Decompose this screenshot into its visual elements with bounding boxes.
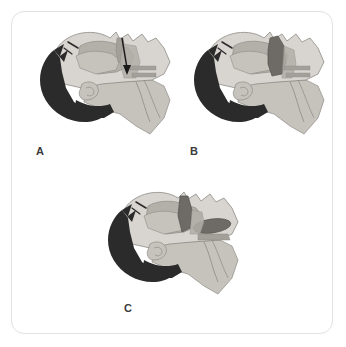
figure-root: A B C — [0, 0, 346, 347]
trachea-band-a-2 — [132, 73, 156, 77]
panel-a-illustration — [24, 22, 174, 144]
trachea-band-b-2 — [286, 73, 310, 77]
head-neck-sagittal-c — [108, 192, 238, 294]
panel-b-illustration — [178, 22, 328, 144]
panel-a — [24, 22, 174, 144]
head-neck-sagittal-b — [194, 32, 324, 134]
panel-label-c: C — [124, 302, 132, 314]
posterior-wall-c — [198, 234, 230, 240]
panel-c-illustration — [92, 182, 242, 304]
panel-c — [92, 182, 242, 304]
panel-label-b: B — [190, 145, 198, 157]
panel-b — [178, 22, 328, 144]
panel-label-a: A — [36, 145, 44, 157]
trachea-band-b-1 — [284, 66, 310, 70]
head-neck-sagittal-a — [40, 32, 170, 134]
trachea-band-a-1 — [130, 66, 156, 70]
